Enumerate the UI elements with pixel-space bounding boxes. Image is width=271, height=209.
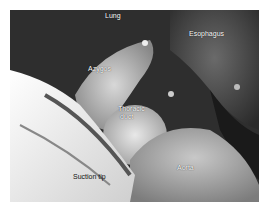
label-lung: Lung xyxy=(105,12,121,20)
label-aorta: Aorta xyxy=(177,164,194,172)
label-esophagus: Esophagus xyxy=(189,30,224,38)
surgical-photo: Lung Esophagus Azygos Thoracic duct Aort… xyxy=(10,10,259,202)
label-azygos: Azygos xyxy=(88,65,111,73)
label-thoracic-duct-line1: Thoracic xyxy=(118,105,145,113)
label-suction-tip: Suction tip xyxy=(73,173,106,181)
label-thoracic-duct-line2: duct xyxy=(120,113,133,121)
